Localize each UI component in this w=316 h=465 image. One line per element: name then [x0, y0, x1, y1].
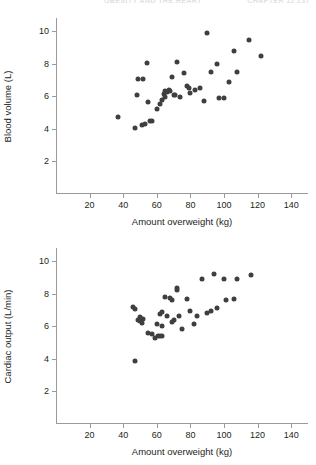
data-point [205, 30, 210, 35]
y-tick-chart1 [52, 96, 56, 97]
x-axis-title-chart2: Amount overweight (kg) [56, 446, 308, 457]
x-tick-chart2 [123, 424, 124, 428]
y-tick-chart2 [52, 261, 56, 262]
y-tick-label-chart1: 4 [44, 124, 49, 134]
x-tick-label-chart1: 140 [284, 200, 299, 210]
y-axis-line-chart2 [56, 248, 57, 424]
y-tick-label-chart1: 6 [44, 91, 49, 101]
x-tick-label-chart2: 80 [185, 430, 195, 440]
data-point [180, 327, 185, 332]
x-tick-label-chart1: 20 [85, 200, 95, 210]
data-point [132, 126, 137, 131]
x-tick-chart1 [291, 194, 292, 198]
data-point [169, 74, 174, 79]
data-point [200, 277, 205, 282]
data-point [235, 277, 240, 282]
x-tick-chart2 [90, 424, 91, 428]
y-axis-title-chart1-text: Blood volume (L) [3, 70, 14, 142]
data-point [188, 308, 193, 313]
data-point [149, 118, 154, 123]
y-tick-chart1 [52, 129, 56, 130]
x-tick-label-chart2: 20 [85, 430, 95, 440]
data-point [201, 98, 206, 103]
data-point [232, 297, 237, 302]
data-point [116, 114, 121, 119]
x-tick-label-chart1: 80 [185, 200, 195, 210]
data-point [211, 272, 216, 277]
y-tick-label-chart1: 10 [39, 26, 49, 36]
x-tick-label-chart2: 40 [118, 430, 128, 440]
x-tick-chart2 [157, 424, 158, 428]
x-axis-line-chart1 [56, 193, 308, 194]
data-point [174, 60, 179, 65]
data-point [171, 318, 176, 323]
data-point [188, 91, 193, 96]
data-point [174, 286, 179, 291]
figure-page: OBESITY AND THE HEART CHAPTER 12 237 Blo… [0, 0, 316, 465]
running-header-left: OBESITY AND THE HEART [0, 0, 202, 4]
data-point [222, 96, 227, 101]
y-axis-title-chart2-text: Cardiac output (L/min) [3, 289, 14, 383]
data-point [223, 298, 228, 303]
running-header-right: CHAPTER 12 237 [247, 0, 316, 4]
x-tick-chart1 [90, 194, 91, 198]
y-tick-label-chart2: 6 [44, 321, 49, 331]
x-tick-chart1 [123, 194, 124, 198]
data-point [154, 107, 159, 112]
data-point [235, 70, 240, 75]
x-tick-chart2 [258, 424, 259, 428]
y-tick-label-chart2: 8 [44, 289, 49, 299]
x-tick-label-chart1: 100 [216, 200, 231, 210]
data-point [198, 86, 203, 91]
data-point [181, 70, 186, 75]
data-point [132, 359, 137, 364]
y-axis-line-chart1 [56, 18, 57, 194]
y-tick-chart1 [52, 31, 56, 32]
y-tick-label-chart1: 8 [44, 59, 49, 69]
data-point [169, 298, 174, 303]
scatter-chart-blood-volume: Blood volume (L) 24681020406080100120140… [0, 8, 316, 236]
y-tick-chart2 [52, 391, 56, 392]
y-tick-label-chart2: 2 [44, 386, 49, 396]
y-tick-label-chart2: 4 [44, 354, 49, 364]
data-point [248, 273, 253, 278]
data-point [258, 53, 263, 58]
y-tick-chart2 [52, 359, 56, 360]
x-axis-title-chart1: Amount overweight (kg) [56, 216, 308, 227]
data-point [163, 95, 168, 100]
data-point [232, 48, 237, 53]
x-tick-label-chart2: 140 [284, 430, 299, 440]
data-point [208, 69, 213, 74]
data-point [159, 334, 164, 339]
x-tick-label-chart2: 120 [250, 430, 265, 440]
x-tick-label-chart1: 40 [118, 200, 128, 210]
data-point [185, 297, 190, 302]
x-tick-chart1 [190, 194, 191, 198]
data-point [132, 307, 137, 312]
data-point [215, 305, 220, 310]
x-tick-label-chart1: 60 [152, 200, 162, 210]
x-tick-chart2 [224, 424, 225, 428]
data-point [141, 76, 146, 81]
data-point [159, 324, 164, 329]
data-point [164, 314, 169, 319]
plot-area-chart2: 24681020406080100120140 [56, 248, 308, 424]
x-tick-chart2 [190, 424, 191, 428]
data-point [227, 79, 232, 84]
data-point [158, 102, 163, 107]
data-point [141, 316, 146, 321]
x-tick-chart1 [224, 194, 225, 198]
data-point [144, 61, 149, 66]
data-point [176, 314, 181, 319]
data-point [191, 321, 196, 326]
y-axis-title-chart1: Blood volume (L) [0, 18, 16, 194]
y-tick-label-chart1: 2 [44, 156, 49, 166]
data-point [134, 92, 139, 97]
scatter-chart-cardiac-output: Cardiac output (L/min) 24681020406080100… [0, 238, 316, 465]
x-tick-chart2 [291, 424, 292, 428]
data-point [178, 95, 183, 100]
y-tick-chart1 [52, 64, 56, 65]
y-tick-chart2 [52, 294, 56, 295]
y-tick-label-chart2: 10 [39, 256, 49, 266]
data-point [215, 62, 220, 67]
